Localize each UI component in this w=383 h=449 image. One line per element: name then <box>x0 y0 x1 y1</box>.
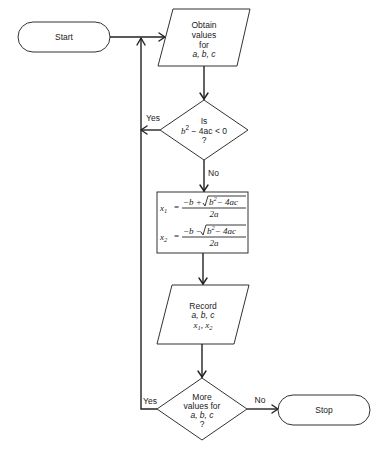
edge-label-no-2: No <box>255 395 266 405</box>
edge-check-yes: Yes <box>141 113 160 134</box>
svg-text:=: = <box>174 202 179 212</box>
input-line-4: a, b, c <box>192 49 216 59</box>
decision-more-values: More values for a, b, c ? <box>157 378 247 440</box>
start-label: Start <box>55 32 74 42</box>
svg-text:=: = <box>174 231 179 241</box>
edge-check-no: No <box>200 160 219 192</box>
edge-compute-to-record <box>199 253 207 285</box>
edge-start-to-input <box>110 33 165 41</box>
edge-input-to-check <box>200 66 208 100</box>
stop-label: Stop <box>315 405 333 415</box>
svg-text:b2− 4ac: b2− 4ac <box>209 195 238 207</box>
compute-roots-box: x1 = −b + b2− 4ac 2a x2 = −b − b2− 4ac 2… <box>157 192 248 253</box>
stop-terminator: Stop <box>278 395 370 425</box>
svg-text:b2− 4ac: b2− 4ac <box>207 224 236 236</box>
input-parallelogram: Obtain values for a, b, c <box>158 9 250 66</box>
svg-text:2a: 2a <box>210 238 220 248</box>
record-line-2: a, b, c <box>191 310 215 320</box>
edge-record-to-more <box>198 344 206 378</box>
edge-more-no: No <box>247 395 278 413</box>
edge-more-yes-loop: Yes <box>137 38 157 409</box>
edge-label-yes-2: Yes <box>143 396 157 406</box>
record-parallelogram: Record a, b, c x1, x2 <box>157 285 249 344</box>
edge-label-no-1: No <box>208 168 219 178</box>
more-question-mark: ? <box>200 419 205 429</box>
svg-text:−b −: −b − <box>183 226 202 236</box>
input-line-1: Obtain <box>191 20 216 30</box>
svg-text:2a: 2a <box>210 209 220 219</box>
edge-label-yes-1: Yes <box>146 113 160 123</box>
decision-discriminant: Is b2 − 4ac < 0 ? <box>160 100 248 160</box>
start-terminator: Start <box>18 22 110 52</box>
check-line-1: Is <box>201 116 208 126</box>
flowchart-canvas: Start Obtain values for a, b, c Is b2 − … <box>0 0 383 449</box>
input-line-2: values <box>192 30 217 40</box>
svg-text:−b +: −b + <box>183 197 202 207</box>
check-question-mark: ? <box>202 135 207 145</box>
